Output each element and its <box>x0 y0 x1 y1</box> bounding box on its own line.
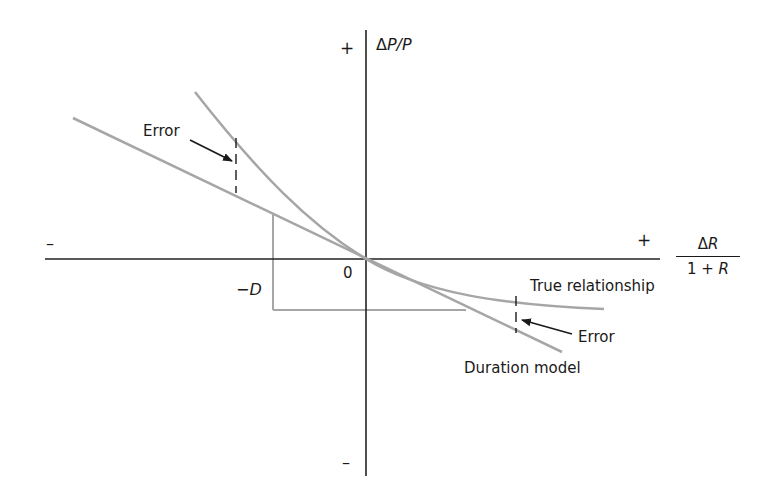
x-minus-sign: – <box>46 236 54 252</box>
y-axis-label-rest: P/P <box>387 35 412 54</box>
error-label-right: Error <box>578 330 615 345</box>
x-label-numerator-var: R <box>708 235 718 253</box>
y-axis-label: ΔP/P <box>376 37 412 53</box>
duration-convexity-diagram <box>0 0 767 500</box>
duration-model-label: Duration model <box>464 361 581 376</box>
x-label-delta: Δ <box>698 235 708 253</box>
x-plus-sign: + <box>637 232 651 249</box>
duration-model-line <box>73 118 562 352</box>
origin-label: 0 <box>343 266 353 281</box>
neg-duration-label: −D <box>236 282 262 298</box>
neg-duration-minus: − <box>236 280 249 299</box>
x-label-denominator-var: R <box>719 260 729 278</box>
y-plus-sign: + <box>340 40 354 57</box>
error-arrow-right <box>522 320 572 334</box>
y-axis-label-delta: Δ <box>376 35 387 54</box>
y-minus-sign: – <box>342 455 350 471</box>
neg-duration-var: D <box>249 280 261 299</box>
true-relationship-label: True relationship <box>530 279 655 294</box>
x-label-denominator-text: 1 + <box>687 260 719 278</box>
x-axis-label-numerator: ΔR <box>676 235 740 257</box>
error-arrow-left <box>190 140 232 161</box>
x-axis-label: ΔR 1 + R <box>676 235 740 278</box>
error-label-left: Error <box>143 124 180 139</box>
x-axis-label-denominator: 1 + R <box>676 257 740 278</box>
